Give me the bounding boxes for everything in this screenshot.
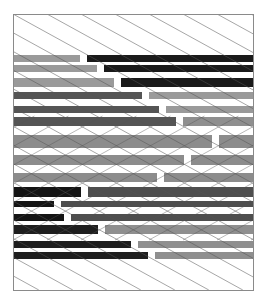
bar-right-segment [149,92,253,99]
bar-left-segment [13,241,131,248]
bar-row [13,92,253,99]
bar-row [13,106,253,113]
bar-left-segment [13,117,176,126]
bar-left-segment [13,173,157,182]
bar-left-segment [13,135,212,148]
bar-right-segment [166,106,253,113]
bar-row [13,78,253,87]
bar-rows [13,55,253,259]
bar-left-segment [13,252,148,259]
artwork-canvas [0,0,267,306]
bar-right-segment [87,55,253,62]
bar-right-segment [155,252,253,259]
bar-row [13,117,253,126]
background [0,0,267,306]
bar-left-segment [13,65,97,72]
bar-right-segment [104,65,253,72]
bar-right-segment [71,214,253,221]
bar-right-segment [191,155,253,165]
bar-left-segment [13,55,80,62]
bar-left-segment [13,106,159,113]
